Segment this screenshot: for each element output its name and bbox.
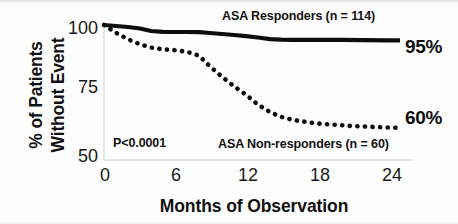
series-label-responders: ASA Responders (n = 114) <box>222 9 375 23</box>
chart-figure: % of Patients Without Event 100 75 50 0 … <box>0 0 458 224</box>
x-tick-24: 24 <box>372 166 412 184</box>
endpoint-label-responders: 95% <box>405 36 442 58</box>
series-label-nonresponders: ASA Non-responders (n = 60) <box>218 137 389 151</box>
x-tick-6: 6 <box>156 166 196 184</box>
x-tick-18: 18 <box>300 166 340 184</box>
x-tick-0: 0 <box>85 166 125 184</box>
series-line-responders <box>104 25 400 40</box>
endpoint-label-nonresponders: 60% <box>405 107 442 129</box>
p-value-annotation: P<0.0001 <box>113 136 166 150</box>
x-tick-12: 12 <box>228 166 268 184</box>
x-axis-title: Months of Observation <box>104 196 404 217</box>
plot-area <box>0 0 458 224</box>
